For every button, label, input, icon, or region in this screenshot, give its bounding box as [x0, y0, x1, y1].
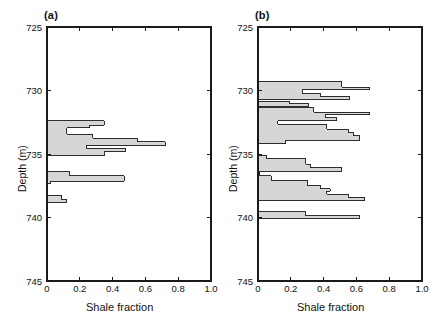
x-tick-label: 0.8 — [172, 283, 185, 294]
x-tick-label: 0.2 — [284, 283, 297, 294]
y-tick-label: 730 — [26, 85, 42, 96]
y-tick-label: 730 — [237, 85, 253, 96]
x-tick-label: 0 — [255, 283, 260, 294]
x-tick-label: 0.6 — [350, 283, 363, 294]
y-tick-label: 725 — [26, 22, 42, 33]
axis-frame-b — [258, 27, 422, 281]
panel-b-plot: 00.20.40.60.81.0725730735740745 — [221, 0, 442, 324]
panel-b: (b) Depth (m) Shale fraction 00.20.40.60… — [221, 0, 442, 324]
shale-profile-a — [47, 121, 165, 202]
y-tick-label: 740 — [26, 212, 42, 223]
x-tick-label: 0.4 — [106, 283, 119, 294]
y-tick-label: 735 — [26, 149, 42, 160]
figure-container: (a) Depth (m) Shale fraction 00.20.40.60… — [0, 0, 442, 324]
x-tick-label: 0.6 — [139, 283, 152, 294]
y-tick-label: 725 — [237, 22, 253, 33]
y-tick-label: 745 — [237, 276, 253, 287]
panel-a-plot: 00.20.40.60.81.0725730735740745 — [0, 0, 221, 324]
panel-a: (a) Depth (m) Shale fraction 00.20.40.60… — [0, 0, 221, 324]
x-tick-label: 0.8 — [383, 283, 396, 294]
x-tick-label: 0 — [44, 283, 49, 294]
y-tick-label: 735 — [237, 149, 253, 160]
shale-profile-b — [258, 82, 370, 219]
y-tick-label: 740 — [237, 212, 253, 223]
x-tick-label: 1.0 — [415, 283, 428, 294]
x-tick-label: 0.2 — [73, 283, 86, 294]
y-tick-label: 745 — [26, 276, 42, 287]
x-tick-label: 1.0 — [204, 283, 217, 294]
x-tick-label: 0.4 — [317, 283, 330, 294]
